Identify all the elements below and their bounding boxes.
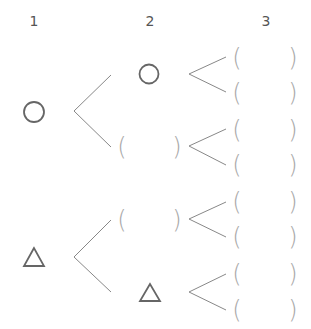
circle-icon xyxy=(140,65,159,84)
blank-close-paren: ) xyxy=(288,225,297,249)
branch-lines xyxy=(74,57,226,310)
blank-open-paren: ( xyxy=(232,262,241,286)
triangle-icon xyxy=(140,284,160,301)
blank-close-paren: ) xyxy=(288,262,297,286)
tree-diagram xyxy=(0,0,311,329)
blank-close-paren: ) xyxy=(172,208,181,232)
blank-open-paren: ( xyxy=(232,118,241,142)
blank-close-paren: ) xyxy=(288,190,297,214)
blank-open-paren: ( xyxy=(117,135,126,159)
blank-close-paren: ) xyxy=(288,298,297,322)
blank-open-paren: ( xyxy=(232,225,241,249)
circle-icon xyxy=(24,102,44,122)
blank-open-paren: ( xyxy=(117,208,126,232)
blank-open-paren: ( xyxy=(232,153,241,177)
blank-close-paren: ) xyxy=(288,153,297,177)
blank-open-paren: ( xyxy=(232,46,241,70)
blank-open-paren: ( xyxy=(232,190,241,214)
blank-open-paren: ( xyxy=(232,298,241,322)
triangle-icon xyxy=(24,248,44,266)
blank-close-paren: ) xyxy=(288,118,297,142)
blank-open-paren: ( xyxy=(232,81,241,105)
blank-close-paren: ) xyxy=(288,46,297,70)
blank-close-paren: ) xyxy=(172,135,181,159)
blank-close-paren: ) xyxy=(288,81,297,105)
